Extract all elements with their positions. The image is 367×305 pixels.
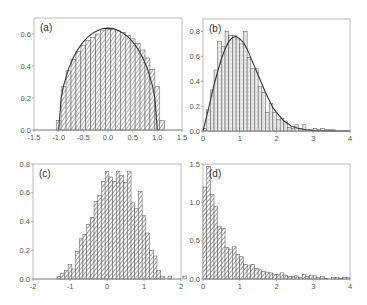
histogram-bar bbox=[157, 270, 161, 279]
histogram-bar bbox=[105, 171, 109, 279]
histogram-bar bbox=[295, 276, 299, 279]
histogram-bar bbox=[258, 270, 262, 279]
histogram-bar bbox=[273, 112, 277, 131]
histogram-bar bbox=[262, 92, 266, 131]
y-tick-label: 0.5 bbox=[190, 236, 200, 245]
histogram-bar bbox=[120, 32, 125, 130]
histogram-bar bbox=[160, 120, 165, 130]
histogram-bar bbox=[120, 176, 124, 280]
histogram-bar bbox=[91, 37, 96, 130]
histogram-bar bbox=[115, 31, 120, 130]
histogram-bar bbox=[218, 226, 222, 279]
histogram-bar bbox=[232, 35, 236, 131]
histogram-bar bbox=[251, 69, 255, 131]
histogram-bar bbox=[221, 46, 225, 131]
histogram-bar bbox=[64, 270, 68, 279]
histogram-bar bbox=[101, 181, 105, 279]
y-tick-label: 0.8 bbox=[20, 160, 30, 169]
histogram-bar bbox=[221, 228, 225, 279]
histogram-bar bbox=[127, 171, 131, 279]
histogram-bar bbox=[240, 44, 244, 131]
histogram-bar bbox=[310, 275, 314, 279]
y-tick-label: 0.6 bbox=[190, 52, 200, 61]
histogram-bar bbox=[277, 274, 281, 279]
y-tick-label: 0.6 bbox=[20, 188, 30, 197]
histogram-bar bbox=[203, 187, 207, 279]
histogram-bar bbox=[135, 209, 139, 279]
x-tick-label: 0 bbox=[201, 282, 205, 291]
y-tick-label: 0.0 bbox=[20, 275, 30, 284]
histogram-bar bbox=[183, 276, 187, 279]
x-tick-label: 2 bbox=[274, 134, 278, 143]
y-tick-label: 0.4 bbox=[190, 77, 200, 86]
x-tick-label: 0 bbox=[105, 282, 109, 291]
y-tick-label: 1.0 bbox=[190, 198, 200, 207]
y-tick-label: 0.0 bbox=[21, 126, 31, 135]
histogram-bar bbox=[262, 271, 266, 279]
x-tick-label: 0 bbox=[201, 134, 205, 143]
y-tick-label: 0.4 bbox=[20, 217, 30, 226]
x-tick-label: 4 bbox=[348, 134, 352, 143]
histogram-bar bbox=[254, 69, 258, 131]
panel-c: -2-10120.00.20.40.60.8(c) bbox=[20, 160, 187, 292]
histogram-bar bbox=[135, 44, 140, 130]
x-tick-label: 2 bbox=[179, 282, 183, 291]
y-tick-label: 0.2 bbox=[21, 94, 31, 103]
histogram-bars bbox=[56, 29, 165, 130]
x-tick-label: 4 bbox=[348, 282, 352, 291]
y-tick-label: 0.6 bbox=[21, 30, 31, 39]
histogram-bar bbox=[66, 71, 71, 130]
histogram-bar bbox=[81, 45, 86, 130]
y-tick-label: 0.2 bbox=[190, 102, 200, 111]
histogram-bar bbox=[96, 34, 101, 130]
histogram-bar bbox=[251, 264, 255, 279]
x-tick-label: 1.5 bbox=[177, 133, 187, 142]
histogram-bar bbox=[247, 266, 251, 279]
panel-b: 012340.00.20.40.60.8(b) bbox=[190, 19, 353, 143]
histogram-bar bbox=[258, 86, 262, 131]
histogram-bar bbox=[98, 196, 102, 279]
histogram-bar bbox=[153, 256, 157, 279]
histogram-bars bbox=[57, 171, 187, 279]
panel-label: (a) bbox=[40, 22, 52, 33]
histogram-bar bbox=[72, 269, 76, 279]
histogram-bar bbox=[57, 276, 61, 279]
histogram-bar bbox=[229, 35, 233, 131]
histogram-bar bbox=[110, 29, 115, 130]
histogram-bar bbox=[265, 272, 269, 279]
y-tick-label: 0.0 bbox=[190, 275, 200, 284]
histogram-bar bbox=[210, 195, 214, 279]
histogram-bar bbox=[236, 254, 240, 279]
histogram-bar bbox=[214, 206, 218, 279]
y-tick-label: 0.0 bbox=[190, 127, 200, 136]
y-tick-label: 0.4 bbox=[21, 62, 31, 71]
panel-label: (d) bbox=[209, 168, 221, 179]
histogram-bar bbox=[113, 181, 117, 279]
y-tick-label: 0.8 bbox=[190, 27, 200, 36]
histogram-bar bbox=[142, 216, 146, 279]
x-tick-label: -0.5 bbox=[77, 133, 90, 142]
histogram-bar bbox=[229, 249, 233, 279]
histogram-bar bbox=[288, 127, 292, 131]
x-tick-label: -1.0 bbox=[52, 133, 65, 142]
histogram-bar bbox=[86, 40, 91, 130]
histogram-bar bbox=[161, 276, 165, 279]
x-tick-label: 1.0 bbox=[152, 133, 162, 142]
histogram-bar bbox=[232, 247, 236, 279]
histogram-bar bbox=[71, 60, 76, 130]
histogram-bar bbox=[130, 39, 135, 130]
histogram-bar bbox=[207, 166, 211, 279]
histogram-bar bbox=[109, 177, 113, 279]
histogram-bar bbox=[254, 268, 258, 279]
histogram-bar bbox=[106, 29, 111, 130]
histogram-bar bbox=[87, 224, 91, 279]
histogram-bar bbox=[236, 39, 240, 131]
x-tick-label: 3 bbox=[311, 134, 315, 143]
panel-a: -1.5-1.0-0.50.00.51.01.50.00.20.40.6(a) bbox=[21, 18, 188, 142]
histogram-bar bbox=[284, 275, 288, 279]
histogram-bar bbox=[218, 41, 222, 131]
histogram-bar bbox=[277, 120, 281, 131]
histogram-bar bbox=[76, 52, 81, 130]
y-tick-label: 1.5 bbox=[190, 160, 200, 169]
histogram-bar bbox=[273, 274, 277, 279]
